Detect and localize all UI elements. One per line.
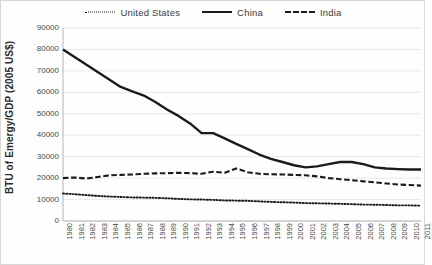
x-tick-label: 1986 bbox=[136, 223, 144, 240]
x-tick-label: 2003 bbox=[332, 223, 340, 240]
legend-item-china[interactable]: China bbox=[202, 7, 263, 18]
x-tick-label: 2011 bbox=[424, 223, 432, 239]
legend-item-india[interactable]: India bbox=[285, 7, 342, 18]
x-tick-label: 1997 bbox=[263, 223, 271, 240]
x-tick-label: 1989 bbox=[170, 223, 178, 240]
y-tick-label: 30000 bbox=[37, 153, 59, 161]
y-axis-title-text: BTU of Emergy/GDP (2005 US$) bbox=[5, 40, 16, 193]
x-tick-label: 1987 bbox=[147, 223, 155, 240]
x-axis-ticks: 1980198119821983198419851986198719881989… bbox=[63, 223, 421, 265]
x-tick-label: 2001 bbox=[309, 223, 317, 240]
y-tick-label: 40000 bbox=[37, 131, 59, 139]
x-tick-label: 2000 bbox=[297, 223, 305, 240]
plot-area bbox=[63, 28, 421, 221]
x-tick-label: 1981 bbox=[78, 223, 86, 240]
x-tick-label: 1992 bbox=[205, 223, 213, 240]
x-tick-label: 1993 bbox=[216, 223, 224, 240]
y-axis-ticks: 0100002000030000400005000060000700008000… bbox=[19, 28, 59, 221]
x-tick-label: 1982 bbox=[89, 223, 97, 240]
x-tick-label: 1995 bbox=[239, 223, 247, 240]
y-tick-label: 20000 bbox=[37, 174, 59, 182]
x-tick-label: 1994 bbox=[228, 223, 236, 240]
chart-legend: United States China India bbox=[1, 3, 426, 21]
legend-item-united-states[interactable]: United States bbox=[85, 7, 180, 18]
y-tick-label: 10000 bbox=[37, 196, 59, 204]
x-tick-label: 1991 bbox=[193, 223, 201, 240]
y-tick-label: 0 bbox=[55, 217, 59, 225]
y-tick-label: 60000 bbox=[37, 88, 59, 96]
solid-line-swatch-icon bbox=[202, 8, 232, 16]
plot-svg bbox=[63, 28, 421, 221]
x-tick-label: 1999 bbox=[286, 223, 294, 240]
x-tick-label: 2008 bbox=[390, 223, 398, 240]
x-tick-label: 2006 bbox=[367, 223, 375, 240]
legend-label-india: India bbox=[320, 7, 342, 18]
x-tick-label: 1985 bbox=[124, 223, 132, 240]
x-tick-label: 2009 bbox=[401, 223, 409, 240]
x-tick-label: 2004 bbox=[343, 223, 351, 240]
x-tick-label: 2007 bbox=[378, 223, 386, 240]
x-tick-label: 2010 bbox=[413, 223, 421, 240]
x-tick-label: 2005 bbox=[355, 223, 363, 240]
y-tick-label: 90000 bbox=[37, 24, 59, 32]
series-line-china bbox=[63, 49, 421, 169]
x-tick-label: 1988 bbox=[159, 223, 167, 240]
legend-label-united-states: United States bbox=[120, 7, 180, 18]
y-tick-label: 70000 bbox=[37, 67, 59, 75]
x-tick-label: 1998 bbox=[274, 223, 282, 240]
y-axis-title: BTU of Emergy/GDP (2005 US$) bbox=[0, 1, 21, 233]
y-tick-label: 50000 bbox=[37, 110, 59, 118]
gridlines bbox=[63, 28, 421, 221]
x-tick-label: 1990 bbox=[182, 223, 190, 240]
axis-lines bbox=[63, 28, 421, 221]
x-tick-label: 1983 bbox=[101, 223, 109, 240]
y-tick-label: 80000 bbox=[37, 45, 59, 53]
x-tick-label: 1984 bbox=[112, 223, 120, 240]
data-series-group bbox=[63, 49, 421, 205]
x-tick-label: 2002 bbox=[320, 223, 328, 240]
x-tick-label: 1996 bbox=[251, 223, 259, 240]
dashed-line-swatch-icon bbox=[285, 8, 315, 16]
dotted-line-swatch-icon bbox=[85, 8, 115, 16]
x-tick-label: 1980 bbox=[66, 223, 74, 240]
legend-label-china: China bbox=[237, 7, 263, 18]
series-line-india bbox=[63, 168, 421, 185]
